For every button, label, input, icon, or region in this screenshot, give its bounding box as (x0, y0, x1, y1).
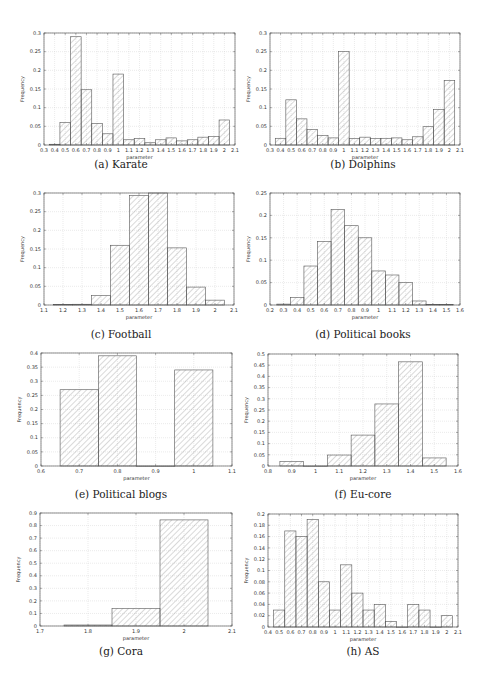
svg-text:0.4: 0.4 (29, 572, 37, 578)
svg-text:0.3: 0.3 (266, 147, 274, 153)
svg-text:1.1: 1.1 (335, 468, 343, 474)
histogram-eu-core: 0.80.911.11.21.31.41.51.600.050.10.150.2… (242, 340, 484, 510)
svg-text:0.25: 0.25 (27, 392, 38, 398)
svg-text:1.6: 1.6 (454, 468, 462, 474)
bar (413, 137, 424, 145)
svg-text:0.6: 0.6 (72, 147, 80, 153)
bar (331, 210, 345, 305)
bar (149, 193, 168, 305)
svg-text:1.3: 1.3 (365, 629, 373, 635)
svg-text:1.2: 1.2 (359, 468, 367, 474)
bar (145, 143, 156, 145)
svg-text:1: 1 (377, 307, 380, 313)
svg-text:1.2: 1.2 (353, 629, 361, 635)
bar (219, 120, 230, 145)
svg-text:0.45: 0.45 (254, 362, 265, 368)
svg-text:0.3: 0.3 (33, 190, 41, 196)
svg-text:1.8: 1.8 (84, 628, 92, 634)
bar (351, 435, 375, 466)
x-axis-label: parameter (350, 475, 377, 482)
chart-caption: (e) Political blogs (0, 488, 242, 500)
y-axis-label: Frequency (245, 236, 252, 262)
svg-text:0: 0 (35, 463, 38, 469)
svg-text:1.3: 1.3 (415, 307, 423, 313)
bar (345, 226, 359, 305)
svg-text:0.8: 0.8 (93, 147, 101, 153)
y-axis-label: Frequency (15, 557, 22, 583)
svg-text:0.8: 0.8 (347, 307, 355, 313)
chart-panel-cora: 1.71.81.922.100.10.20.30.40.50.60.70.80.… (0, 510, 242, 680)
bar (60, 123, 71, 145)
svg-text:0.2: 0.2 (29, 598, 37, 604)
svg-text:0.16: 0.16 (254, 533, 265, 539)
bar (112, 608, 160, 626)
bar (175, 370, 213, 466)
histogram-political-blogs: 0.60.70.80.911.100.050.10.150.20.250.30.… (0, 340, 242, 510)
bar (329, 610, 340, 627)
svg-text:0.7: 0.7 (29, 535, 37, 541)
svg-text:1.1: 1.1 (228, 468, 236, 474)
bar (166, 138, 177, 145)
svg-text:1.9: 1.9 (192, 307, 200, 313)
svg-text:0.2: 0.2 (259, 67, 267, 73)
y-axis-label: Frequency (16, 397, 23, 423)
bar (285, 531, 296, 627)
svg-text:0.9: 0.9 (329, 147, 337, 153)
chart-panel-political-blogs: 0.60.70.80.911.100.050.10.150.20.250.30.… (0, 340, 242, 510)
svg-text:0.4: 0.4 (257, 373, 265, 379)
svg-text:0.2: 0.2 (33, 67, 41, 73)
svg-text:1.7: 1.7 (36, 628, 44, 634)
bar (206, 300, 225, 305)
svg-text:0.05: 0.05 (254, 452, 265, 458)
svg-text:2: 2 (223, 147, 226, 153)
svg-text:0.1: 0.1 (257, 567, 265, 573)
bar (363, 610, 374, 627)
chart-panel-football: 1.11.21.31.41.51.61.71.81.922.100.050.10… (0, 170, 242, 340)
bar (375, 404, 399, 466)
svg-text:0.4: 0.4 (277, 147, 285, 153)
svg-text:0: 0 (264, 142, 267, 148)
bar (60, 390, 98, 466)
svg-text:0.25: 0.25 (30, 48, 41, 54)
bar (399, 362, 423, 466)
x-axis-label: parameter (350, 636, 377, 643)
bars (274, 520, 453, 628)
svg-text:1: 1 (333, 629, 336, 635)
bar (385, 275, 399, 305)
svg-text:0.8: 0.8 (113, 468, 121, 474)
svg-text:0.1: 0.1 (259, 104, 267, 110)
svg-text:1: 1 (314, 468, 317, 474)
svg-text:1.3: 1.3 (372, 147, 380, 153)
y-axis-label: Frequency (19, 236, 26, 262)
bar (304, 266, 318, 305)
svg-text:1.1: 1.1 (125, 147, 133, 153)
svg-text:1.9: 1.9 (435, 147, 443, 153)
svg-text:0.8: 0.8 (29, 522, 37, 528)
histogram-dolphins: 0.30.40.50.60.70.80.911.11.21.31.41.51.6… (242, 0, 484, 170)
svg-text:0.4: 0.4 (293, 307, 301, 313)
bar (280, 462, 304, 466)
bar (198, 137, 209, 145)
chart-panel-eu-core: 0.80.911.11.21.31.41.51.600.050.10.150.2… (242, 340, 484, 510)
svg-text:0: 0 (38, 302, 41, 308)
svg-text:0.2: 0.2 (259, 212, 267, 218)
svg-text:1.5: 1.5 (393, 147, 401, 153)
bar (318, 241, 332, 305)
svg-text:2: 2 (213, 307, 216, 313)
svg-text:0.4: 0.4 (264, 629, 272, 635)
bars (60, 356, 213, 466)
bar (274, 610, 285, 627)
svg-text:0.25: 0.25 (30, 208, 41, 214)
svg-text:0.5: 0.5 (307, 307, 315, 313)
bar (318, 582, 329, 627)
bar (444, 80, 455, 145)
bar (102, 134, 113, 145)
bar (111, 245, 130, 305)
svg-text:1.4: 1.4 (376, 629, 384, 635)
chart-panel-dolphins: 0.30.40.50.60.70.80.911.11.21.31.41.51.6… (242, 0, 484, 170)
svg-text:2.1: 2.1 (454, 629, 462, 635)
bar (349, 139, 360, 145)
chart-caption: (h) AS (242, 645, 484, 657)
svg-text:1.7: 1.7 (414, 147, 422, 153)
svg-text:0.3: 0.3 (257, 396, 265, 402)
